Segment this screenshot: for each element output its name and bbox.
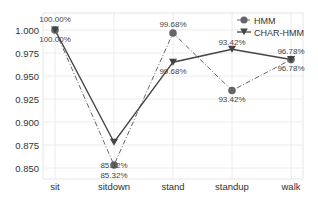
data-label: 85.32% (100, 161, 127, 170)
y-tick-label: 0.975 (15, 48, 39, 59)
data-label: 93.42% (218, 38, 245, 47)
data-label: 85.32% (100, 171, 127, 180)
legend: HMM CHAR-HMM (237, 16, 304, 38)
x-tick-label: walk (280, 181, 300, 192)
x-tick-label: standup (215, 181, 249, 192)
y-axis: 0.8500.8750.9000.9250.9500.9751.000 (15, 25, 39, 174)
x-tick-label: sit (50, 181, 60, 192)
y-tick-label: 0.900 (15, 117, 39, 128)
hmm-point (169, 29, 177, 37)
data-label: 99.68% (159, 20, 186, 29)
data-label: 96.78% (277, 47, 304, 56)
data-label: 100.00% (39, 35, 71, 44)
data-label: 96.78% (277, 64, 304, 73)
circle-marker-icon (240, 16, 247, 23)
legend-label: HMM (254, 16, 276, 26)
line-chart: 0.8500.8750.9000.9250.9500.9751.000 sits… (0, 0, 318, 204)
x-tick-label: sitdown (98, 181, 130, 192)
y-tick-label: 0.950 (15, 71, 39, 82)
data-label: 99.68% (159, 67, 186, 76)
y-tick-label: 0.925 (15, 94, 39, 105)
y-tick-label: 0.850 (15, 163, 39, 174)
data-labels: 100.00%100.00%85.32%85.32%99.68%99.68%93… (39, 15, 304, 180)
y-tick-label: 1.000 (15, 25, 39, 36)
hmm-point (228, 87, 236, 95)
legend-label: CHAR-HMM (254, 28, 304, 38)
data-label: 100.00% (39, 15, 71, 24)
legend-item-char-hmm: CHAR-HMM (237, 28, 304, 38)
x-axis: sitsitdownstandstandupwalk (50, 181, 300, 192)
x-tick-label: stand (161, 181, 184, 192)
gridlines (43, 13, 303, 179)
data-label: 93.42% (218, 95, 245, 104)
y-tick-label: 0.875 (15, 140, 39, 151)
legend-item-hmm: HMM (237, 16, 276, 26)
